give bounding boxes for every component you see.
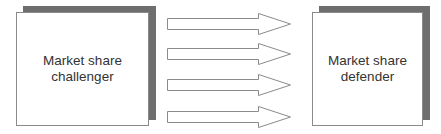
defender-box: Market share defender [312,12,423,126]
defender-label-line2: defender [328,69,407,85]
arrow-right-icon [168,75,291,96]
defender-label-line1: Market share [328,53,407,69]
arrow-right-icon [168,44,291,65]
defender-label: Market share defender [328,53,407,85]
arrow-right-icon [168,107,291,128]
arrow-right-icon [168,14,291,35]
